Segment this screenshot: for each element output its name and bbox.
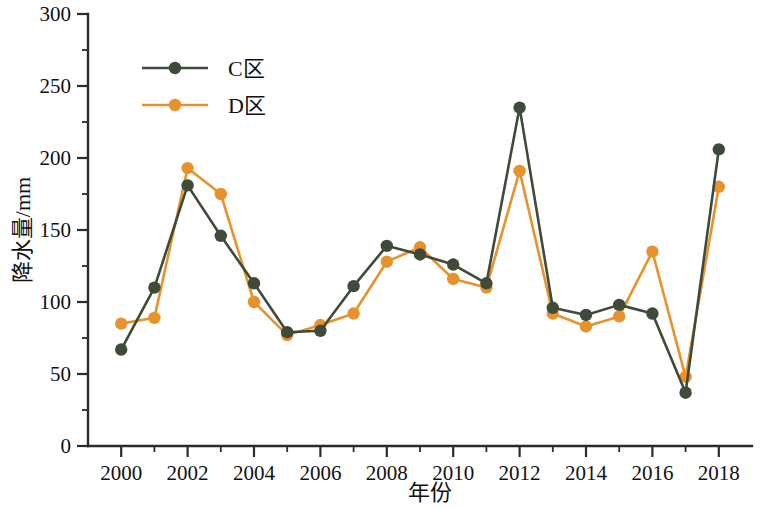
y-tick-label: 50 (50, 362, 71, 386)
x-tick-label: 2014 (565, 461, 608, 485)
data-point (347, 280, 359, 292)
data-point (580, 309, 592, 321)
y-tick-label: 300 (40, 2, 72, 26)
x-tick-label: 2004 (233, 461, 276, 485)
data-point (314, 325, 326, 337)
data-point (181, 179, 193, 191)
x-tick-label: 2006 (299, 461, 341, 485)
chart-legend: C区D区 (142, 56, 266, 118)
data-point (646, 307, 658, 319)
data-point (613, 310, 625, 322)
legend-label: C区 (228, 56, 265, 81)
y-tick-label: 0 (61, 434, 72, 458)
x-tick-label: 2016 (631, 461, 673, 485)
legend-swatch-marker (169, 62, 181, 74)
data-point (480, 277, 492, 289)
data-point (148, 281, 160, 293)
legend-label: D区 (228, 93, 266, 118)
data-point (381, 240, 393, 252)
precipitation-line-chart: 050100150200250300 200020022004200620082… (0, 0, 770, 509)
data-point (181, 162, 193, 174)
data-point (547, 302, 559, 314)
x-tick-label: 2018 (698, 461, 740, 485)
data-point (281, 326, 293, 338)
data-point (115, 343, 127, 355)
y-axis-ticks (77, 14, 88, 446)
x-tick-label: 2000 (100, 461, 142, 485)
x-tick-label: 2002 (167, 461, 209, 485)
data-point (646, 245, 658, 257)
y-tick-label: 250 (40, 74, 72, 98)
data-point (248, 277, 260, 289)
y-axis-tick-labels: 050100150200250300 (40, 2, 72, 458)
data-point (513, 101, 525, 113)
series-c (115, 101, 725, 399)
y-axis-title: 降水量/mm (10, 177, 35, 283)
data-point (447, 273, 459, 285)
series-d (115, 162, 725, 383)
data-point (148, 312, 160, 324)
y-tick-label: 150 (40, 218, 72, 242)
data-point (347, 307, 359, 319)
x-axis-title: 年份 (408, 480, 452, 505)
data-point (513, 165, 525, 177)
x-tick-label: 2012 (499, 461, 541, 485)
data-point (414, 248, 426, 260)
chart-canvas: 050100150200250300 200020022004200620082… (0, 0, 770, 509)
legend-swatch-marker (169, 99, 181, 111)
data-point (679, 387, 691, 399)
data-point (248, 296, 260, 308)
data-point (580, 320, 592, 332)
data-point (381, 255, 393, 267)
data-point (215, 230, 227, 242)
data-point (115, 317, 127, 329)
data-point (713, 143, 725, 155)
x-tick-label: 2008 (366, 461, 408, 485)
axes-group (88, 14, 752, 446)
data-point (215, 188, 227, 200)
y-tick-label: 100 (40, 290, 72, 314)
data-point (613, 299, 625, 311)
data-point (447, 258, 459, 270)
y-tick-label: 200 (40, 146, 72, 170)
x-axis-ticks (121, 446, 719, 457)
data-series-group (115, 101, 725, 399)
series-line (121, 168, 719, 377)
